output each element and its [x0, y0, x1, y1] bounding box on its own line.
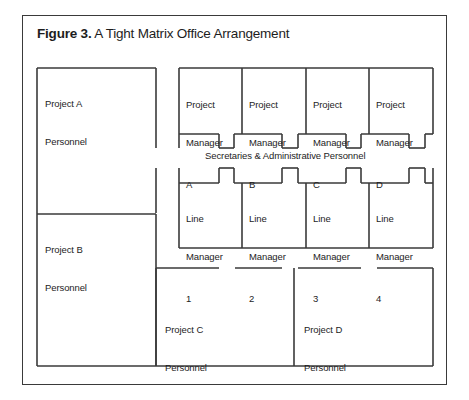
- project-c-line2: Personnel: [165, 362, 207, 375]
- lm-2-title1: Line: [249, 213, 286, 226]
- project-b-line1: Project B: [45, 244, 87, 257]
- project-a-line1: Project A: [45, 98, 87, 111]
- room-label-project-b: Project B Personnel: [45, 219, 87, 319]
- pm-c-title2: Manager: [313, 137, 350, 150]
- lm-2-title2: Manager: [249, 251, 286, 264]
- project-d-line2: Personnel: [304, 362, 346, 375]
- project-c-line1: Project C: [165, 324, 207, 337]
- project-d-line1: Project D: [304, 324, 346, 337]
- pm-a-title2: Manager: [186, 137, 223, 150]
- floor-plan-diagram: Project A Personnel Project B Personnel …: [23, 16, 448, 386]
- room-label-project-c: Project C Personnel: [165, 299, 207, 399]
- project-b-line2: Personnel: [45, 282, 87, 295]
- room-label-project-d: Project D Personnel: [304, 299, 346, 399]
- lm-4-title2: Manager: [376, 251, 413, 264]
- pm-d-title1: Project: [376, 99, 413, 112]
- room-label-project-a: Project A Personnel: [45, 73, 87, 173]
- room-label-line-manager-2: Line Manager 2: [249, 188, 286, 331]
- lm-1-title2: Manager: [186, 251, 223, 264]
- lm-4-id: 4: [376, 293, 413, 306]
- pm-a-title1: Project: [186, 99, 223, 112]
- pm-b-title2: Manager: [249, 137, 286, 150]
- pm-b-title1: Project: [249, 99, 286, 112]
- pm-c-title1: Project: [313, 99, 350, 112]
- figure-frame: Figure 3. A Tight Matrix Office Arrangem…: [22, 15, 447, 385]
- room-label-line-manager-4: Line Manager 4: [376, 188, 413, 331]
- lm-2-id: 2: [249, 293, 286, 306]
- project-a-line2: Personnel: [45, 136, 87, 149]
- lm-1-title1: Line: [186, 213, 223, 226]
- pm-d-title2: Manager: [376, 137, 413, 150]
- lm-3-title1: Line: [313, 213, 350, 226]
- lm-4-title1: Line: [376, 213, 413, 226]
- corridor-label-secretaries: Secretaries & Administrative Personnel: [205, 150, 365, 161]
- lm-3-title2: Manager: [313, 251, 350, 264]
